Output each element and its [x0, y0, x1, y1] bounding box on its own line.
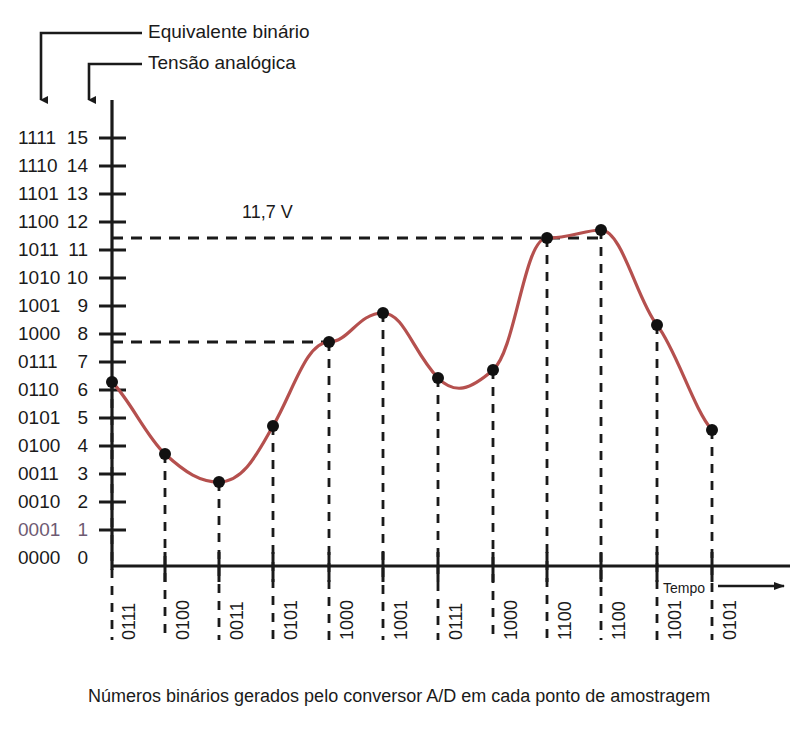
y-axis — [99, 100, 126, 570]
x-sample-label-8: 1000 — [502, 600, 520, 640]
y-binary-label-1: 0001 — [18, 520, 60, 539]
y-decimal-label-13: 13 — [62, 184, 88, 203]
x-sample-label-2: 0100 — [174, 600, 192, 640]
x-sample-label-9: 1100 — [556, 601, 574, 640]
time-axis-label: Tempo — [663, 581, 705, 595]
y-decimal-label-0: 0 — [62, 548, 88, 567]
x-sample-label-6: 1001 — [392, 600, 410, 640]
y-decimal-label-3: 3 — [62, 464, 88, 483]
y-binary-label-11: 1011 — [18, 240, 59, 259]
x-sample-label-3: 0011 — [228, 601, 246, 640]
adc-sampling-figure: Equivalente binário Tensão analógica 11,… — [0, 0, 811, 734]
x-sample-label-4: 0101 — [282, 600, 300, 640]
x-sample-label-12: 0101 — [721, 600, 739, 640]
x-sample-label-7: 0111 — [447, 603, 465, 640]
y-decimal-label-15: 15 — [62, 128, 88, 147]
callout-leader-analog — [89, 64, 142, 100]
figure-caption: Números binários gerados pelo conversor … — [88, 686, 710, 707]
callout-label-analog-voltage: Tensão analógica — [148, 53, 296, 72]
y-decimal-label-11: 11 — [62, 240, 88, 259]
y-binary-label-12: 1100 — [18, 212, 59, 231]
y-binary-label-7: 0111 — [18, 352, 57, 371]
y-decimal-label-8: 8 — [62, 324, 88, 343]
y-binary-label-0: 0000 — [18, 548, 60, 567]
y-binary-label-3: 0011 — [18, 464, 59, 483]
y-binary-label-10: 1010 — [18, 268, 60, 287]
x-sample-label-1: 0111 — [120, 603, 138, 640]
y-decimal-label-10: 10 — [62, 268, 88, 287]
y-binary-label-2: 0010 — [18, 492, 60, 511]
y-decimal-label-4: 4 — [62, 436, 88, 455]
y-binary-label-6: 0110 — [18, 380, 59, 399]
callout-label-binary-equivalent: Equivalente binário — [148, 22, 310, 41]
y-binary-label-13: 1101 — [18, 184, 59, 203]
voltage-annotation-label: 11,7 V — [242, 203, 293, 221]
analog-waveform — [112, 230, 712, 482]
y-decimal-label-12: 12 — [62, 212, 88, 231]
y-decimal-label-5: 5 — [62, 408, 88, 427]
x-sample-label-10: 1100 — [610, 601, 628, 640]
callout-leader-binary — [41, 33, 142, 100]
y-binary-label-14: 1110 — [18, 156, 57, 175]
y-decimal-label-9: 9 — [62, 296, 88, 315]
y-decimal-label-7: 7 — [62, 352, 88, 371]
y-decimal-label-14: 14 — [62, 156, 88, 175]
y-decimal-label-1: 1 — [62, 520, 88, 539]
sample-droplines — [112, 230, 712, 640]
y-binary-label-4: 0100 — [18, 436, 60, 455]
y-binary-label-5: 0101 — [18, 408, 60, 427]
x-sample-label-5: 1000 — [338, 600, 356, 640]
y-decimal-label-2: 2 — [62, 492, 88, 511]
x-sample-label-11: 1001 — [666, 600, 684, 640]
y-binary-label-15: 1111 — [18, 128, 56, 147]
y-binary-label-8: 1000 — [18, 324, 60, 343]
y-binary-label-9: 1001 — [18, 296, 60, 315]
y-decimal-label-6: 6 — [62, 380, 88, 399]
